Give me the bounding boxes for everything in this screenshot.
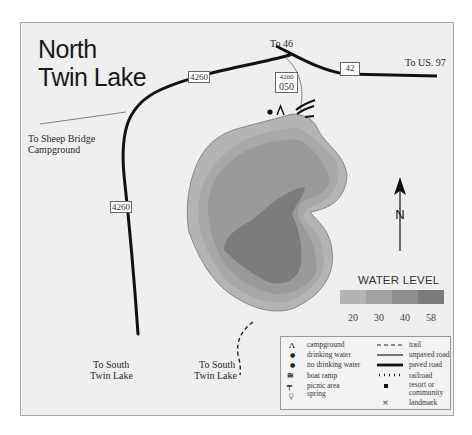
label-to-46: To 46 [270,38,293,49]
water-level-ticks: 20 30 40 58 [340,312,444,323]
legend-line-symbols [376,342,404,400]
spring-icon: ♀ [288,392,294,401]
water-level-tick: 30 [366,312,392,323]
road-shield-42: 42 [340,62,360,76]
picnic-area-icon: ╤ [287,382,292,391]
water-level-tick: 58 [418,312,444,323]
drinking-water-icon: ● [290,351,295,358]
road-shield-spur-top: 4260 [277,73,296,81]
boat-ramp-icon: ≋ [287,370,294,380]
legend-label: paved road [409,361,442,369]
water-level-tick: 20 [340,312,366,323]
legend-label: unpaved road [409,351,450,359]
road-shield-4260-top: 4260 [188,71,210,83]
map-title: North Twin Lake [38,35,146,91]
label-south-twin-left-2: Twin Lake [90,370,133,381]
sheep-bridge-road [40,112,126,124]
title-line-1: North [38,35,146,63]
title-line-2: Twin Lake [38,63,146,91]
water-level-tick: 40 [392,312,418,323]
road-shield-4260-left: 4260 [110,201,132,213]
label-south-twin-left-1: To South [93,359,129,370]
water-level-scale [340,290,444,304]
trail-south [238,322,253,375]
legend-label: landmark [409,399,437,407]
no-drinking-water-icon: ● [290,361,295,368]
boat-ramp-icon-line3 [305,116,314,117]
label-sheep-bridge-1: To Sheep Bridge [28,133,95,144]
legend-label: campground [307,341,345,349]
north-arrow: N [392,177,408,255]
map-legend: Λ campground ● drinking water ● no drink… [280,336,451,410]
legend-label: railroad [409,372,432,380]
no-drinking-water-icon [267,109,272,114]
water-level-title: WATER LEVEL [358,274,439,286]
resort-symbol [384,384,388,388]
label-south-twin-right-1: To South [199,359,235,370]
legend-label: boat ramp [307,372,337,380]
legend-label: no drinking water [307,361,360,369]
water-level-swatch-30 [366,290,392,304]
landmark-icon: × [382,398,389,407]
legend-label: spring [307,390,326,398]
svg-text:N: N [395,207,404,222]
water-level-swatch-40 [392,290,418,304]
north-arrow-icon: N [392,177,408,251]
water-level-swatch-58 [418,290,444,304]
road-shield-4260-050: 4260 050 [275,72,298,93]
water-level-swatch-20 [340,290,366,304]
legend-label: trail [409,341,421,349]
campground-icon: Λ [289,341,295,350]
legend-label: drinking water [307,351,351,359]
legend-label: resort or community [409,381,449,397]
label-south-twin-right-2: Twin Lake [194,370,237,381]
label-sheep-bridge-2: Campground [28,144,80,155]
label-to-us97: To US. 97 [405,57,446,68]
campground-icon [277,106,284,115]
road-shield-spur-bottom: 050 [277,81,296,92]
